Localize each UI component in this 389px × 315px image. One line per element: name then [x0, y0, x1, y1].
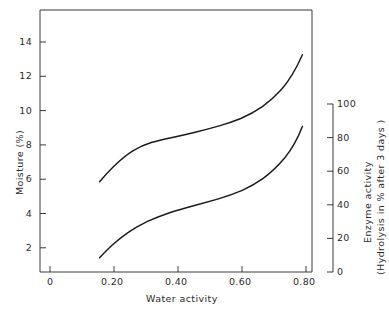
- y2-tick-label-0: 0: [337, 266, 343, 277]
- y2-tick-label-60: 60: [337, 165, 350, 176]
- x-tick-label-020: 0.20: [101, 276, 123, 287]
- x-tick-label-040: 0.40: [165, 276, 187, 287]
- plot-frame: [40, 10, 312, 272]
- plot-area: [0, 0, 389, 315]
- y-tick-label-12: 12: [14, 70, 32, 81]
- x-axis-ticks: [50, 266, 306, 272]
- chart-figure: 14 12 10 8 6 4 2 0 0.20 0.40 0.60 0.80 1…: [0, 0, 389, 315]
- y-axis-left-ticks: [40, 42, 46, 248]
- y-tick-label-2: 2: [14, 242, 32, 253]
- y-tick-label-4: 4: [14, 208, 32, 219]
- y2-axis-title-line1: Enzyme activity: [362, 161, 373, 243]
- x-axis-title: Water activity: [146, 293, 218, 304]
- x-tick-label-080: 0.80: [293, 276, 315, 287]
- y-tick-label-10: 10: [14, 105, 32, 116]
- y2-tick-label-40: 40: [337, 199, 350, 210]
- y-tick-label-14: 14: [14, 36, 32, 47]
- y-axis-right: [327, 104, 333, 272]
- y2-tick-label-100: 100: [337, 98, 356, 109]
- x-tick-label-060: 0.60: [229, 276, 251, 287]
- y2-axis-title-line2: (Hydrolysis in % after 3 days ): [375, 119, 386, 275]
- y2-tick-label-80: 80: [337, 132, 350, 143]
- y2-tick-label-20: 20: [337, 232, 350, 243]
- y-axis-title: Moisture (%): [14, 130, 25, 195]
- series-line-enzyme: [100, 126, 303, 257]
- series-line-moisture: [100, 55, 303, 182]
- x-tick-label-0: 0: [47, 276, 53, 287]
